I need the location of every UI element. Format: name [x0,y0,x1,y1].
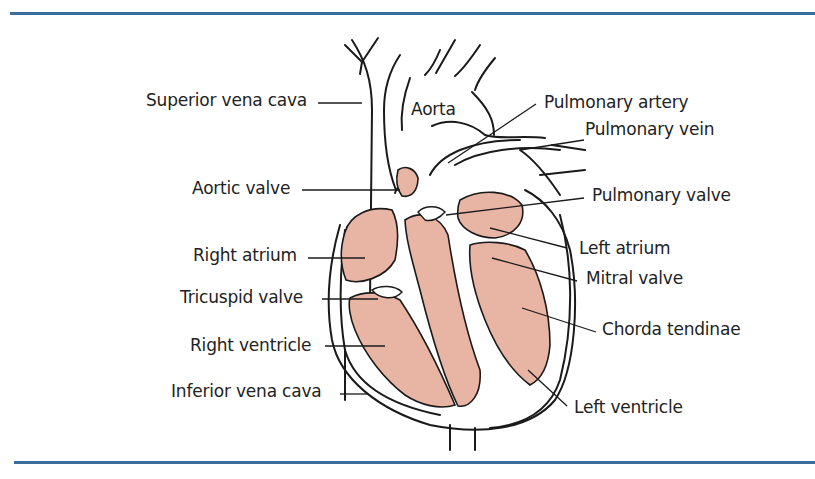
label-pulmonary-valve: Pulmonary valve [592,185,731,205]
label-mitral-valve: Mitral valve [586,268,683,288]
label-tricuspid-valve: Tricuspid valve [180,287,303,307]
label-superior-vena-cava: Superior vena cava [146,90,307,110]
label-right-ventricle: Right ventricle [190,335,311,355]
label-pulmonary-artery: Pulmonary artery [544,92,688,112]
label-left-ventricle: Left ventricle [574,397,683,417]
label-aorta: Aorta [411,99,456,119]
label-inferior-vena-cava: Inferior vena cava [171,381,322,401]
heart-illustration [0,0,815,479]
label-chorda-tendinae: Chorda tendinae [602,319,740,339]
label-right-atrium: Right atrium [193,245,297,265]
label-pulmonary-vein: Pulmonary vein [585,119,714,139]
label-aortic-valve: Aortic valve [192,178,290,198]
label-left-atrium: Left atrium [579,238,670,258]
